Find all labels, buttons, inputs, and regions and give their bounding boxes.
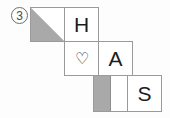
net-cell-bar[interactable] [93, 75, 128, 112]
net-cell-s-label: S [137, 83, 151, 104]
heart-icon: ♡ [75, 51, 89, 67]
net-cell-a-label: A [108, 48, 122, 69]
net-cell-h[interactable]: H [64, 7, 99, 42]
net-cell-triangle[interactable] [30, 7, 65, 42]
net-cell-s[interactable]: S [127, 75, 162, 112]
triangle-shading-icon [31, 8, 64, 41]
net-cell-heart[interactable]: ♡ [64, 41, 99, 76]
net-cell-h-label: H [74, 14, 89, 35]
half-bar-shading-icon [94, 76, 111, 111]
cube-net-diagram: H ♡ A S [0, 0, 170, 118]
net-cell-a[interactable]: A [98, 41, 133, 76]
puzzle-figure: 3 H ♡ A S [0, 0, 170, 118]
